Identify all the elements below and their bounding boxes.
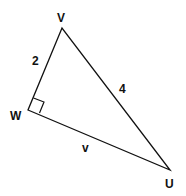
vertex-label-w: W	[10, 109, 22, 123]
vertex-label-u: U	[165, 177, 174, 191]
triangle-diagram: V W U 2 4 v	[0, 0, 186, 196]
side-label-vu: 4	[119, 82, 126, 96]
vertex-label-v: V	[57, 11, 65, 25]
side-label-wu: v	[82, 141, 89, 155]
triangle-shape	[28, 28, 170, 170]
side-label-vw: 2	[32, 54, 39, 68]
right-angle-marker	[34, 98, 45, 113]
